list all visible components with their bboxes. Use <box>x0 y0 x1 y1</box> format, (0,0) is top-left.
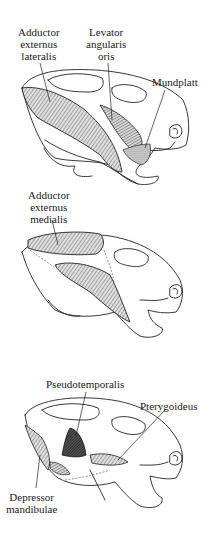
orbit <box>112 85 147 103</box>
label-adductor-externus-medialis: Adductor externus medialis <box>28 189 70 225</box>
pseudotemporalis-muscle <box>62 428 86 457</box>
nostril <box>170 125 182 139</box>
mundplatt-muscle <box>123 144 151 165</box>
label-adductor-externus-lateralis: Adductor externus lateralis <box>18 26 60 62</box>
depressor-mandibulae-muscle <box>25 425 50 470</box>
orbit <box>112 417 146 435</box>
temporal-fenestra <box>42 404 99 420</box>
nostril <box>170 452 182 466</box>
label-pterygoideus: Pterygoideus <box>140 400 197 412</box>
adductor-externus-medialis-lower-muscle <box>55 263 130 322</box>
nostril <box>170 285 182 299</box>
adductor-externus-medialis-muscle <box>28 232 103 255</box>
skull-middle <box>22 220 183 337</box>
depressor-mandibulae-lower-muscle <box>50 462 70 475</box>
label-levator-angularis-oris: Levator angularis oris <box>86 26 126 62</box>
orbit <box>114 249 148 267</box>
label-depressor-mandibulae: Depressor mandibulae <box>6 491 57 515</box>
adductor-externus-lateralis-muscle <box>22 87 122 172</box>
temporal-fenestra <box>48 74 103 92</box>
label-pseudotemporalis: Pseudotemporalis <box>46 378 124 390</box>
label-mundplatt: Mundplatt <box>152 76 198 88</box>
